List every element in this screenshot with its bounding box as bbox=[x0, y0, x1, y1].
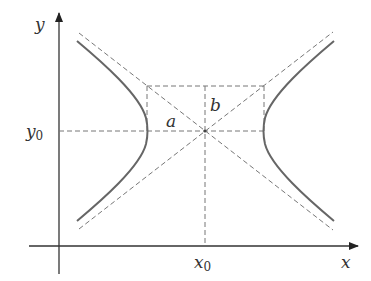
center-point bbox=[204, 130, 207, 133]
b-label: b bbox=[210, 95, 221, 115]
y0-label: y0 bbox=[25, 121, 43, 143]
x0-label: x0 bbox=[194, 252, 211, 274]
y-axis-label: y bbox=[34, 14, 45, 34]
x-axis-label: x bbox=[341, 252, 351, 272]
hyperbola-diagram: y x y0 x0 a b bbox=[0, 0, 371, 281]
a-label: a bbox=[166, 111, 176, 131]
hyperbola-right-branch bbox=[264, 41, 335, 221]
